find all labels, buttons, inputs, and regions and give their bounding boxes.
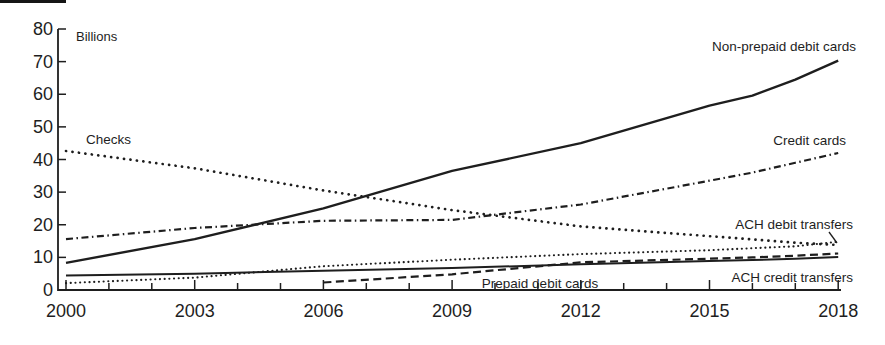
y-axis-tick-label: 30 xyxy=(33,182,53,202)
y-axis-tick-label: 60 xyxy=(33,84,53,104)
series-label-non-prepaid-debit-cards: Non-prepaid debit cards xyxy=(712,39,856,54)
x-axis-tick-label: 2000 xyxy=(46,301,86,321)
y-axis-tick-label: 70 xyxy=(33,52,53,72)
noncash-payments-trend-figure: 0102030405060708020002003200620092012201… xyxy=(0,0,885,345)
x-axis-tick-label: 2015 xyxy=(689,301,729,321)
series-label-credit-cards: Credit cards xyxy=(773,133,846,148)
ach-debit-pointer-line xyxy=(829,232,837,243)
series-lines xyxy=(66,61,838,284)
series-line-ach-debit-transfers xyxy=(66,242,838,283)
series-label-checks: Checks xyxy=(86,132,131,147)
y-axis-tick-label: 80 xyxy=(33,19,53,39)
x-axis-tick-label: 2009 xyxy=(432,301,472,321)
noncash-payments-line-chart: 0102030405060708020002003200620092012201… xyxy=(0,0,885,345)
series-line-ach-credit-transfers xyxy=(66,257,838,276)
x-axis-tick-label: 2018 xyxy=(818,301,858,321)
page-edge-rule xyxy=(0,0,66,3)
x-axis-tick-label: 2006 xyxy=(303,301,343,321)
y-axis-tick-label: 0 xyxy=(43,280,53,300)
y-axis-tick-label: 50 xyxy=(33,117,53,137)
series-line-non-prepaid-debit-cards xyxy=(66,61,838,263)
y-axis-tick-label: 20 xyxy=(33,215,53,235)
x-axis-tick-label: 2012 xyxy=(561,301,601,321)
axis-spine xyxy=(58,29,841,290)
series-line-checks xyxy=(66,151,838,245)
y-axis-unit-label: Billions xyxy=(76,29,118,44)
series-label-prepaid-debit-cards: Prepaid debit cards xyxy=(482,276,599,291)
series-label-ach-credit-transfers: ACH credit transfers xyxy=(731,270,853,285)
y-axis-tick-label: 10 xyxy=(33,247,53,267)
x-axis-tick-label: 2003 xyxy=(175,301,215,321)
series-label-ach-debit-transfers: ACH debit transfers xyxy=(735,217,853,232)
y-axis-tick-label: 40 xyxy=(33,150,53,170)
